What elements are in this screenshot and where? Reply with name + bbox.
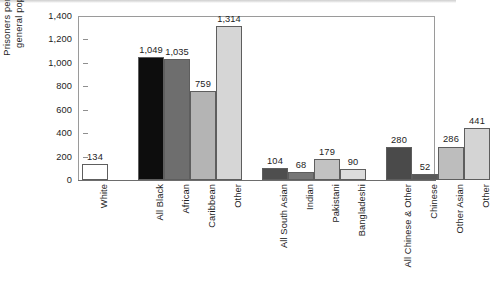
bar <box>164 59 190 180</box>
bar-value-label: 1,049 <box>139 45 163 55</box>
x-axis-tick-label: Other Asian <box>455 184 465 234</box>
bar-value-label: 1,035 <box>165 47 189 57</box>
bar-value-label: 104 <box>267 156 283 166</box>
y-axis-tick-label: 200 <box>10 152 72 162</box>
y-axis-tick-label: 1,200 <box>10 34 72 44</box>
bar-value-label: 286 <box>443 134 459 144</box>
bar <box>340 169 366 180</box>
bar <box>190 91 216 180</box>
y-axis-tick-label: 400 <box>10 128 72 138</box>
x-axis-baseline <box>78 180 436 181</box>
x-axis-tick-label: Indian <box>305 184 315 210</box>
y-axis-tick-label: 800 <box>10 81 72 91</box>
bar <box>438 147 464 181</box>
bar <box>464 128 490 180</box>
y-axis-ticks: 02004006008001,0001,2001,400 <box>10 0 72 288</box>
x-axis-tick-label: All South Asian <box>279 184 289 248</box>
x-axis-tick-label: Bangladeshi <box>357 184 367 236</box>
y-axis-tick-label: 1,400 <box>10 11 72 21</box>
bar-value-label: 759 <box>195 79 211 89</box>
y-axis-tick-label: 1,000 <box>10 58 72 68</box>
bar-value-label: 52 <box>420 162 431 172</box>
x-axis-tick-label: African <box>181 184 191 214</box>
bar-value-label: 134 <box>87 152 103 162</box>
y-axis-tick-label: 600 <box>10 105 72 115</box>
x-axis-tick-label: Other <box>481 184 491 208</box>
x-axis-tick-label: Chinese <box>429 184 439 219</box>
bars-container: 1341,0491,0357591,3141046817990280522864… <box>78 16 435 180</box>
bar <box>288 172 314 180</box>
bar-value-label: 441 <box>469 116 485 126</box>
bar <box>262 168 288 180</box>
bar-value-label: 90 <box>348 157 359 167</box>
bar-value-label: 179 <box>319 147 335 157</box>
bar <box>386 147 412 180</box>
y-axis-tick-label: 0 <box>10 175 72 185</box>
x-axis-tick-label: Caribbean <box>207 184 217 228</box>
x-axis-labels: WhiteAll BlackAfricanCaribbeanOtherAll S… <box>78 184 435 288</box>
x-axis-tick-label: All Black <box>155 184 165 221</box>
bar <box>412 174 438 180</box>
bar <box>216 26 242 180</box>
x-axis-tick-label: Pakistani <box>331 184 341 223</box>
bar <box>138 57 164 180</box>
bar <box>82 164 108 180</box>
bar-value-label: 1,314 <box>217 14 241 24</box>
x-axis-tick-label: Other <box>233 184 243 208</box>
bar-value-label: 68 <box>296 160 307 170</box>
bar-value-label: 280 <box>391 135 407 145</box>
bar <box>314 159 340 180</box>
x-axis-tick-label: All Chinese & Other <box>403 184 413 267</box>
x-axis-tick-label: White <box>99 184 109 208</box>
